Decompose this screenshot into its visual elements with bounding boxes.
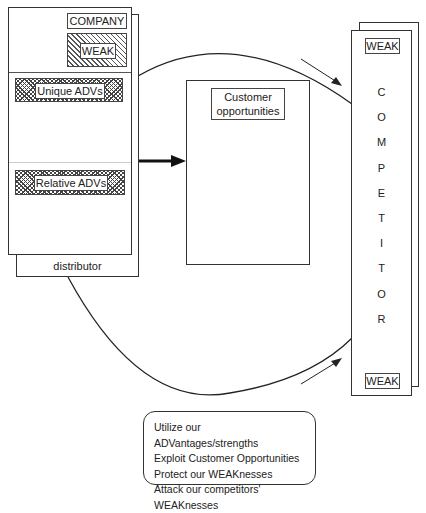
competitor-box: WEAK C O M P E T I T O R WEAK: [351, 30, 412, 396]
distributor-label: distributor: [17, 260, 138, 272]
competitor-letter: C: [352, 86, 411, 98]
competitor-letter: M: [352, 136, 411, 148]
summary-line: Attack our competitors' WEAKnesses: [154, 482, 305, 513]
customer-opportunities-label: Customer opportunities: [211, 88, 285, 120]
competitor-letter: O: [352, 111, 411, 123]
competitor-weak-top: WEAK: [365, 38, 400, 54]
competitor-letter: T: [352, 212, 411, 224]
summary-line: Protect our WEAKnesses: [154, 467, 305, 483]
strategy-summary: Utilize our ADVantages/strengths Exploit…: [143, 411, 316, 485]
competitor-letter: R: [352, 313, 411, 325]
relative-advs-label: Relative ADVs: [34, 175, 108, 191]
relative-advs-hatch: Relative ADVs: [15, 170, 125, 195]
customer-opportunities-box: Customer opportunities: [186, 80, 310, 265]
unique-advs-label: Unique ADVs: [35, 83, 105, 99]
divider: [9, 72, 131, 73]
summary-line: Utilize our ADVantages/strengths: [154, 420, 305, 451]
competitor-letter: E: [352, 187, 411, 199]
competitor-letter: I: [352, 237, 411, 249]
unique-advs-hatch: Unique ADVs: [15, 78, 123, 102]
company-weak-label: WEAK: [80, 43, 116, 59]
company-box: COMPANY WEAK Unique ADVs Relative ADVs: [8, 7, 132, 255]
summary-line: Exploit Customer Opportunities: [154, 451, 305, 467]
company-title: COMPANY: [67, 13, 127, 29]
divider-2: [9, 162, 131, 163]
competitor-letter: P: [352, 162, 411, 174]
competitor-letter: T: [352, 262, 411, 274]
competitor-letter: O: [352, 288, 411, 300]
competitor-weak-bottom: WEAK: [365, 373, 400, 389]
company-weak-hatch: WEAK: [67, 33, 127, 67]
